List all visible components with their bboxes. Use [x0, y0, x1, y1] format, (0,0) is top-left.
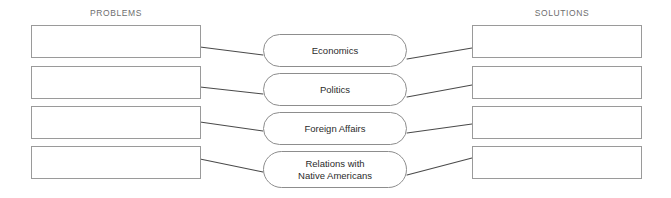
topic-node-label: Relations with Native Americans — [298, 158, 372, 182]
problem-box-4[interactable] — [31, 146, 201, 179]
solution-box-2[interactable] — [472, 66, 642, 99]
connector-right-3 — [407, 124, 472, 133]
column-header-problems: PROBLEMS — [31, 8, 201, 18]
topic-node-economics[interactable]: Economics — [263, 34, 407, 67]
solution-box-3[interactable] — [472, 106, 642, 139]
column-header-solutions: SOLUTIONS — [477, 8, 647, 18]
topic-node-foreign-affairs[interactable]: Foreign Affairs — [263, 112, 407, 145]
problem-box-2[interactable] — [31, 66, 201, 99]
connector-left-2 — [200, 87, 263, 94]
solution-box-1[interactable] — [472, 25, 642, 58]
connector-right-2 — [407, 85, 472, 97]
connector-right-1 — [407, 48, 472, 59]
topic-node-politics[interactable]: Politics — [263, 73, 407, 106]
connector-left-1 — [200, 47, 263, 55]
concept-map-diagram: PROBLEMS SOLUTIONS Economics Politics Fo… — [0, 0, 671, 198]
connector-left-4 — [200, 159, 263, 172]
topic-node-label: Economics — [312, 45, 358, 57]
connector-right-4 — [407, 158, 472, 175]
topic-node-relations-with-native-americans[interactable]: Relations with Native Americans — [263, 151, 407, 188]
solution-box-4[interactable] — [472, 146, 642, 179]
topic-node-label: Politics — [320, 84, 350, 96]
topic-node-label: Foreign Affairs — [304, 123, 365, 135]
connector-left-3 — [200, 122, 263, 131]
problem-box-1[interactable] — [31, 25, 201, 58]
problem-box-3[interactable] — [31, 106, 201, 139]
